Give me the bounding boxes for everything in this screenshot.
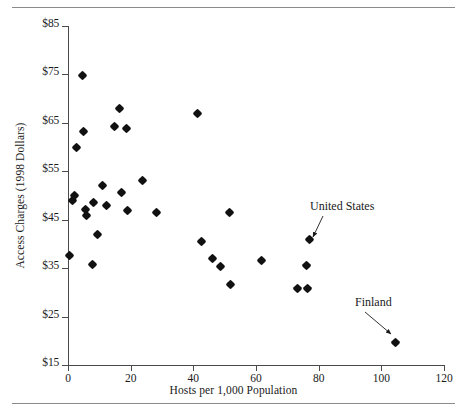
data-point: [216, 261, 226, 271]
plot-area: $15$25$35$45$55$65$75$85 020406080100120: [68, 26, 444, 365]
y-tick-mark: [62, 26, 68, 27]
x-tick-mark: [193, 365, 194, 371]
data-point: [88, 198, 98, 208]
x-tick-mark: [444, 365, 445, 371]
x-tick-label: 40: [188, 373, 200, 385]
bottom-horizontal-rule: [12, 403, 455, 404]
x-tick-label: 60: [250, 373, 262, 385]
y-axis-title: Access Charges (1998 Dollars): [14, 26, 30, 365]
x-tick-label: 120: [435, 373, 452, 385]
x-tick-label: 100: [373, 373, 390, 385]
annotation-label-finland: Finland: [355, 296, 392, 308]
data-point: [192, 108, 202, 118]
y-tick-label: $15: [42, 357, 59, 369]
data-point: [78, 70, 88, 80]
data-point: [93, 229, 103, 239]
x-tick-mark: [256, 365, 257, 371]
x-tick-label: 80: [313, 373, 325, 385]
data-point: [65, 251, 75, 261]
data-point: [123, 206, 133, 216]
data-point: [196, 236, 206, 246]
x-tick-label: 0: [65, 373, 71, 385]
y-tick-label: $75: [42, 66, 59, 78]
x-axis-title: Hosts per 1,000 Population: [0, 384, 467, 396]
data-point: [109, 121, 119, 131]
data-point: [102, 201, 112, 211]
data-point: [114, 103, 124, 113]
data-point: [293, 284, 303, 294]
data-point: [304, 235, 314, 245]
annotation-label-united-states: United States: [310, 200, 374, 212]
data-point: [226, 280, 236, 290]
data-point: [302, 284, 312, 294]
figure-container: $15$25$35$45$55$65$75$85 020406080100120…: [0, 0, 467, 414]
data-point: [224, 207, 234, 217]
y-tick-label: $85: [42, 18, 59, 30]
data-point: [117, 188, 127, 198]
y-tick-mark: [62, 123, 68, 124]
y-tick-mark: [62, 268, 68, 269]
y-tick-label: $25: [42, 309, 59, 321]
y-tick-mark: [62, 317, 68, 318]
data-point: [79, 127, 89, 137]
data-point: [98, 180, 108, 190]
data-point: [390, 338, 400, 348]
y-tick-label: $35: [42, 260, 59, 272]
data-point: [301, 260, 311, 270]
top-horizontal-rule: [12, 7, 455, 8]
data-point: [151, 207, 161, 217]
y-tick-label: $65: [42, 115, 59, 127]
x-tick-mark: [319, 365, 320, 371]
data-point: [207, 254, 217, 264]
data-point: [122, 124, 132, 134]
y-tick-label: $45: [42, 212, 59, 224]
x-tick-mark: [68, 365, 69, 371]
y-tick-mark: [62, 220, 68, 221]
y-tick-mark: [62, 74, 68, 75]
x-tick-label: 20: [125, 373, 137, 385]
x-tick-mark: [131, 365, 132, 371]
x-tick-mark: [381, 365, 382, 371]
y-tick-mark: [62, 171, 68, 172]
data-point: [257, 255, 267, 265]
data-point: [87, 259, 97, 269]
y-tick-label: $55: [42, 163, 59, 175]
data-point: [137, 175, 147, 185]
data-point: [71, 142, 81, 152]
